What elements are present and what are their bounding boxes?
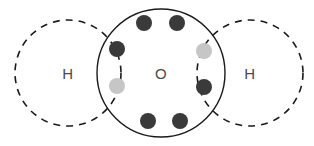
electron-dot-top-left bbox=[136, 15, 152, 31]
electron-dot-right-lower bbox=[196, 79, 212, 95]
hydrogen-left-label: H bbox=[62, 65, 73, 82]
electron-dot-left-upper bbox=[109, 41, 125, 57]
electron-dot-top-right bbox=[169, 15, 185, 31]
electron-dot-bottom-left bbox=[140, 113, 156, 129]
electron-dot-right-upper-shared bbox=[196, 43, 212, 59]
water-lewis-dot-diagram: H O H bbox=[0, 0, 314, 146]
lewis-structure-canvas: H O H bbox=[0, 0, 314, 146]
hydrogen-right-label: H bbox=[244, 65, 255, 82]
oxygen-label: O bbox=[155, 65, 167, 82]
electron-dot-bottom-right bbox=[172, 113, 188, 129]
electron-dot-left-lower-shared bbox=[109, 78, 125, 94]
